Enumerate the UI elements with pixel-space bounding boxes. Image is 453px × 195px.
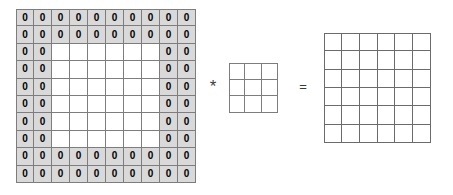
matrix-cell: [124, 131, 142, 148]
matrix-cell: [124, 113, 142, 130]
matrix-cell: 0: [178, 44, 196, 61]
matrix-cell: [360, 106, 378, 124]
matrix-cell: 0: [124, 26, 142, 43]
matrix-cell: 0: [142, 166, 160, 183]
matrix-cell: [229, 63, 245, 80]
matrix-cell: [142, 96, 160, 113]
matrix-cell: 0: [142, 9, 160, 26]
matrix-cell: 0: [178, 9, 196, 26]
matrix-cell: 0: [160, 131, 178, 148]
matrix-cell: 0: [34, 96, 52, 113]
equals-operator: =: [295, 80, 311, 93]
matrix-cell: [142, 113, 160, 130]
matrix-cell: [52, 44, 70, 61]
matrix-cell: 0: [16, 61, 34, 78]
matrix-cell: [342, 70, 360, 88]
convolution-diagram: 0000000000000000000000000000000000000000…: [0, 0, 453, 195]
matrix-cell: [106, 61, 124, 78]
matrix-cell: 0: [52, 148, 70, 165]
matrix-cell: 0: [16, 9, 34, 26]
matrix-cell: 0: [34, 131, 52, 148]
matrix-cell: [124, 96, 142, 113]
matrix-cell: [413, 88, 431, 106]
matrix-cell: [342, 88, 360, 106]
matrix-cell: [324, 88, 342, 106]
matrix-cell: [324, 70, 342, 88]
matrix-cell: [88, 44, 106, 61]
matrix-cell: [324, 51, 342, 69]
matrix-cell: 0: [34, 166, 52, 183]
matrix-cell: [360, 70, 378, 88]
matrix-cell: 0: [178, 26, 196, 43]
matrix-cell: [70, 113, 88, 130]
matrix-cell: 0: [16, 79, 34, 96]
matrix-cell: [324, 106, 342, 124]
matrix-cell: 0: [70, 9, 88, 26]
matrix-cell: [360, 125, 378, 143]
matrix-cell: 0: [178, 113, 196, 130]
matrix-cell: 0: [16, 131, 34, 148]
matrix-cell: [395, 33, 413, 51]
matrix-cell: [52, 61, 70, 78]
matrix-cell: 0: [52, 166, 70, 183]
matrix-cell: [106, 96, 124, 113]
matrix-cell: [142, 44, 160, 61]
matrix-cell: [52, 131, 70, 148]
matrix-cell: 0: [124, 148, 142, 165]
matrix-cell: 0: [160, 9, 178, 26]
matrix-cell: 0: [16, 113, 34, 130]
matrix-cell: [262, 96, 278, 113]
matrix-cell: 0: [34, 61, 52, 78]
matrix-cell: 0: [106, 166, 124, 183]
matrix-cell: [360, 33, 378, 51]
matrix-cell: 0: [160, 148, 178, 165]
matrix-cell: [106, 44, 124, 61]
matrix-cell: [229, 80, 245, 97]
matrix-cell: [52, 96, 70, 113]
matrix-cell: [395, 88, 413, 106]
matrix-cell: 0: [34, 26, 52, 43]
matrix-cell: [70, 44, 88, 61]
matrix-cell: [413, 70, 431, 88]
matrix-cell: 0: [16, 44, 34, 61]
matrix-cell: [413, 125, 431, 143]
matrix-cell: 0: [52, 26, 70, 43]
matrix-cell: [88, 113, 106, 130]
matrix-cell: 0: [142, 148, 160, 165]
matrix-cell: 0: [88, 9, 106, 26]
matrix-cell: [413, 106, 431, 124]
matrix-cell: 0: [34, 79, 52, 96]
output-matrix: [324, 33, 431, 143]
matrix-cell: 0: [124, 166, 142, 183]
matrix-cell: 0: [178, 61, 196, 78]
matrix-cell: 0: [178, 148, 196, 165]
matrix-cell: [70, 79, 88, 96]
matrix-cell: [378, 33, 396, 51]
matrix-cell: 0: [52, 9, 70, 26]
asterisk-operator: *: [205, 78, 221, 95]
matrix-cell: [395, 70, 413, 88]
matrix-cell: 0: [70, 26, 88, 43]
matrix-cell: [70, 96, 88, 113]
matrix-cell: [413, 51, 431, 69]
matrix-cell: [142, 79, 160, 96]
matrix-cell: 0: [34, 9, 52, 26]
matrix-cell: [106, 79, 124, 96]
matrix-cell: 0: [160, 61, 178, 78]
matrix-cell: [70, 131, 88, 148]
matrix-cell: [262, 63, 278, 80]
matrix-cell: 0: [160, 96, 178, 113]
matrix-cell: [378, 51, 396, 69]
matrix-cell: [88, 61, 106, 78]
matrix-cell: [395, 51, 413, 69]
matrix-cell: [52, 113, 70, 130]
matrix-cell: [106, 113, 124, 130]
matrix-cell: [88, 131, 106, 148]
matrix-cell: [342, 51, 360, 69]
matrix-cell: 0: [34, 44, 52, 61]
padded-input-matrix: 0000000000000000000000000000000000000000…: [16, 9, 196, 183]
matrix-cell: [324, 125, 342, 143]
matrix-cell: 0: [178, 96, 196, 113]
matrix-cell: [395, 106, 413, 124]
matrix-cell: [124, 44, 142, 61]
